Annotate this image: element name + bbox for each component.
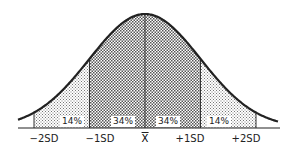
tick-label-plus-2sd: +2SD [232,133,261,144]
tick-label-minus-2sd: −2SD [30,133,59,144]
tick-label-minus-1sd: −1SD [86,133,115,144]
region-label-p1-p2: 14% [207,116,231,127]
region-label-mean-p1: 34% [156,116,180,127]
tick-label-plus-1sd: +1SD [176,133,205,144]
region-label-m1-mean: 34% [111,116,135,127]
tick-label-mean: X [142,132,149,144]
normal-curve-chart [0,0,296,152]
region-label-m2-m1: 14% [60,116,84,127]
